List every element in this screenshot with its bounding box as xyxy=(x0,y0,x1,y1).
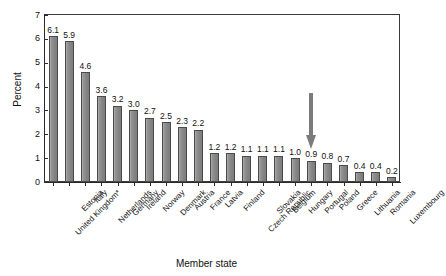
x-axis-line xyxy=(44,182,401,183)
x-axis-tick xyxy=(69,182,70,186)
bar-group: 1.2 xyxy=(206,15,222,182)
bar-value-label: 1.1 xyxy=(273,145,285,154)
x-axis-tick xyxy=(344,182,345,186)
bar-group: 5.9 xyxy=(61,15,77,182)
bar-value-label: 0.7 xyxy=(338,155,350,164)
bar-group: 4.6 xyxy=(77,15,93,182)
bar-group: 6.1 xyxy=(45,15,61,182)
y-axis-tick xyxy=(44,182,48,183)
bar-group: 0.8 xyxy=(319,15,335,182)
bar-value-label: 0.4 xyxy=(370,162,382,171)
x-axis-tick xyxy=(263,182,264,186)
y-axis-tick-label: 4 xyxy=(24,82,40,91)
bar-group: 1.2 xyxy=(223,15,239,182)
bar-value-label: 2.5 xyxy=(160,112,172,121)
bar-group: 1.0 xyxy=(287,15,303,182)
bar-value-label: 3.2 xyxy=(112,95,124,104)
bar xyxy=(194,130,203,182)
x-axis-tick xyxy=(376,182,377,186)
bar-group: 2.3 xyxy=(174,15,190,182)
bar xyxy=(81,72,90,182)
x-axis-tick xyxy=(53,182,54,186)
bar xyxy=(113,106,122,182)
bar-group: 2.7 xyxy=(142,15,158,182)
bar-value-label: 3.0 xyxy=(128,100,140,109)
bar xyxy=(242,156,251,182)
bar-group: 2.5 xyxy=(158,15,174,182)
y-axis-tick-label: 5 xyxy=(24,58,40,67)
bar-value-label: 1.1 xyxy=(241,145,253,154)
x-axis-tick xyxy=(182,182,183,186)
bar-group: 0.4 xyxy=(368,15,384,182)
bar xyxy=(307,161,316,182)
bar xyxy=(226,153,235,182)
bar-value-label: 6.1 xyxy=(47,26,59,35)
bar-value-label: 0.2 xyxy=(386,167,398,176)
x-axis-tick xyxy=(101,182,102,186)
x-axis-tick xyxy=(166,182,167,186)
bar-group: 1.1 xyxy=(239,15,255,182)
y-axis-title: Percent xyxy=(12,55,23,125)
bar xyxy=(323,163,332,182)
bar xyxy=(339,165,348,182)
bar-value-label: 1.1 xyxy=(257,145,269,154)
bar-value-label: 1.2 xyxy=(209,143,221,152)
x-axis-tick xyxy=(198,182,199,186)
x-axis-title: Member state xyxy=(0,258,413,269)
bar xyxy=(291,158,300,182)
bar-group: 3.6 xyxy=(93,15,109,182)
x-axis-tick xyxy=(279,182,280,186)
x-axis-tick xyxy=(150,182,151,186)
bar-value-label: 1.0 xyxy=(289,148,301,157)
bar xyxy=(49,36,58,182)
x-axis-tick xyxy=(118,182,119,186)
bar xyxy=(274,156,283,182)
x-axis-tick xyxy=(392,182,393,186)
bar-value-label: 2.3 xyxy=(176,117,188,126)
bar-group: 3.0 xyxy=(126,15,142,182)
down-arrow-annotation-icon xyxy=(306,93,317,151)
bars-layer: 6.15.94.63.63.23.02.72.52.32.21.21.21.11… xyxy=(45,15,400,182)
y-axis-tick-label: 7 xyxy=(24,11,40,20)
y-axis-tick-label: 0 xyxy=(24,178,40,187)
bar-value-label: 0.8 xyxy=(321,152,333,161)
bar xyxy=(210,153,219,182)
bar-group: 0.7 xyxy=(335,15,351,182)
x-axis-tick xyxy=(214,182,215,186)
bar-group: 2.2 xyxy=(190,15,206,182)
bar-group: 3.2 xyxy=(110,15,126,182)
y-axis-tick-label: 6 xyxy=(24,34,40,43)
y-axis-tick-label: 1 xyxy=(24,154,40,163)
bar-value-label: 0.9 xyxy=(305,150,317,159)
y-axis-tick-label: 2 xyxy=(24,130,40,139)
bar-group: 1.1 xyxy=(255,15,271,182)
bar xyxy=(145,118,154,182)
bar-group: 0.4 xyxy=(352,15,368,182)
x-axis-tick xyxy=(311,182,312,186)
bar xyxy=(65,41,74,182)
x-axis-tick xyxy=(231,182,232,186)
bar-group: 1.1 xyxy=(271,15,287,182)
x-axis-tick xyxy=(327,182,328,186)
bar xyxy=(97,96,106,182)
bar xyxy=(129,110,138,182)
x-axis-tick xyxy=(85,182,86,186)
x-axis-tick xyxy=(295,182,296,186)
bar-value-label: 3.6 xyxy=(96,86,108,95)
bar-value-label: 0.4 xyxy=(354,162,366,171)
x-axis-tick xyxy=(360,182,361,186)
x-axis-tick xyxy=(247,182,248,186)
bar-value-label: 2.7 xyxy=(144,107,156,116)
arrow-shaft xyxy=(309,93,313,137)
bar xyxy=(258,156,267,182)
bar xyxy=(371,172,380,182)
bar-value-label: 1.2 xyxy=(225,143,237,152)
bar xyxy=(178,127,187,182)
bar-value-label: 5.9 xyxy=(63,31,75,40)
y-axis-tick-label: 3 xyxy=(24,106,40,115)
bar xyxy=(355,172,364,182)
x-axis-tick-label: Finland xyxy=(241,188,266,213)
bar-group: 0.2 xyxy=(384,15,400,182)
bar xyxy=(162,122,171,182)
